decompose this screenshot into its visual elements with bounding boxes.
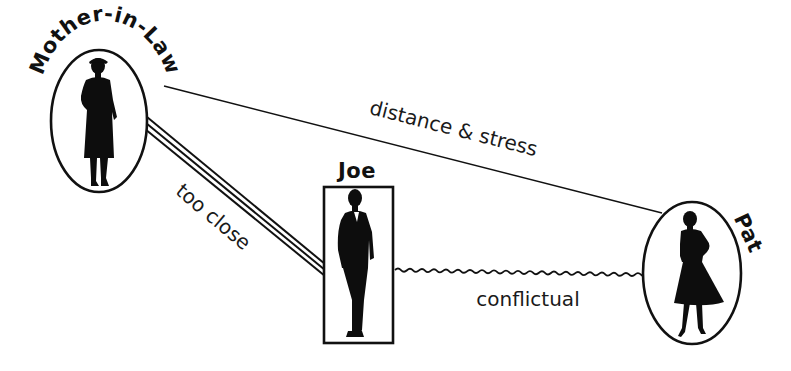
conflictual-label: conflictual	[476, 287, 579, 311]
distance-stress-label: distance & stress	[367, 95, 540, 161]
wavy-line	[395, 269, 647, 277]
edge-conflictual: conflictual	[395, 269, 647, 311]
node-joe: Joe	[324, 159, 393, 343]
family-relationship-diagram: distance & stress too close conflictual	[0, 0, 791, 371]
joe-label: Joe	[336, 159, 376, 183]
edge-too-close: too close	[145, 117, 325, 276]
node-mother-in-law: Mother-in-Law	[25, 2, 186, 192]
too-close-label: too close	[171, 178, 256, 254]
node-pat: Pat	[643, 202, 768, 344]
